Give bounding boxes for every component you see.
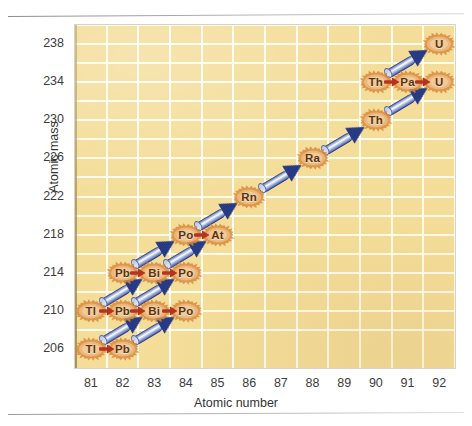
- nuclide-label: At: [211, 229, 224, 241]
- gridline-horizontal: [75, 25, 455, 26]
- y-tick-label-214: 214: [18, 265, 64, 279]
- gridline-horizontal: [75, 119, 455, 121]
- nuclide-U-238: U: [422, 33, 455, 55]
- nuclide-label: Rn: [241, 191, 257, 203]
- nuclide-label: Bi: [148, 305, 160, 317]
- nuclide-label: Th: [369, 114, 383, 126]
- beta-decay-arrow-icon: [194, 226, 210, 244]
- bottom-divider-rule: [8, 412, 464, 415]
- beta-decay-arrow-icon: [162, 302, 178, 320]
- decay-series-figure: UThPaUThRaRnPoAtPbBiPoTlPbBiPoTlPb 20621…: [0, 0, 472, 426]
- y-tick-label-206: 206: [18, 341, 64, 355]
- nuclide-label: U: [435, 76, 444, 88]
- nuclide-label: Pb: [115, 267, 130, 279]
- gridline-horizontal: [75, 157, 455, 159]
- plot-area: UThPaUThRaRnPoAtPbBiPoTlPbBiPoTlPb: [75, 25, 455, 368]
- beta-decay-arrow-icon: [384, 73, 400, 91]
- nuclide-label: Bi: [148, 267, 160, 279]
- nuclide-label: Po: [178, 229, 193, 241]
- nuclide-label: Th: [369, 76, 383, 88]
- beta-decay-arrow-icon: [130, 302, 146, 320]
- nuclide-label: Tl: [86, 343, 97, 355]
- nuclide-Th-230: Th: [359, 109, 393, 131]
- y-tick-label-210: 210: [18, 303, 64, 317]
- x-tick-label-92: 92: [419, 376, 459, 390]
- nuclide-label: Tl: [86, 305, 97, 317]
- y-tick-label-234: 234: [18, 74, 64, 88]
- beta-decay-arrow-icon: [415, 73, 431, 91]
- nuclide-label: Po: [178, 267, 193, 279]
- nuclide-label: U: [435, 38, 444, 50]
- gridline-horizontal: [75, 215, 455, 217]
- y-axis-title: Atomic mass: [47, 97, 61, 217]
- gridline-horizontal: [75, 234, 455, 236]
- y-tick-label-218: 218: [18, 227, 64, 241]
- x-axis-title: Atomic number: [0, 396, 472, 410]
- gridline-horizontal: [75, 253, 455, 255]
- gridline-horizontal: [75, 138, 455, 140]
- nuclide-Rn-222: Rn: [232, 186, 266, 208]
- nuclide-Ra-226: Ra: [296, 147, 330, 169]
- top-divider-rule: [8, 13, 464, 17]
- nuclide-label: Pa: [400, 76, 414, 88]
- nuclide-label: Ra: [305, 152, 320, 164]
- y-tick-label-238: 238: [18, 36, 64, 50]
- gridline-horizontal: [75, 176, 455, 178]
- beta-decay-arrow-icon: [99, 302, 115, 320]
- beta-decay-arrow-icon: [162, 264, 178, 282]
- nuclide-label: Pb: [115, 305, 130, 317]
- gridline-horizontal: [75, 43, 455, 45]
- beta-decay-arrow-icon: [99, 340, 115, 358]
- beta-decay-arrow-icon: [130, 264, 146, 282]
- nuclide-label: Pb: [115, 343, 130, 355]
- nuclide-label: Po: [178, 305, 193, 317]
